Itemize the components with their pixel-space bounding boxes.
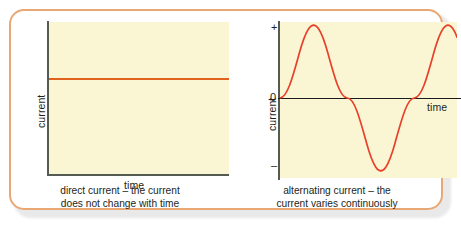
plot-area-direct-current: [49, 22, 229, 174]
y-axis-label-direct-current: current: [35, 95, 47, 128]
x-axis-label-alternating-current: time: [427, 101, 447, 113]
x-axis-direct-current: [47, 174, 229, 176]
caption-alternating-current-line1: alternating current – the: [229, 185, 445, 198]
y-tick-negative: –: [271, 159, 277, 171]
panel-alternating-current: current time + 0 – alternating current –…: [229, 11, 445, 208]
caption-alternating-current-line2: current varies continuously: [229, 198, 445, 211]
y-axis-direct-current: [47, 21, 49, 176]
y-tick-positive: +: [271, 21, 277, 33]
caption-direct-current: direct current – the current does not ch…: [11, 185, 229, 210]
y-tick-zero: 0: [270, 91, 276, 103]
figure-card: current time direct current – the curren…: [9, 9, 443, 210]
caption-direct-current-line2: does not change with time: [11, 198, 229, 211]
panel-direct-current: current time direct current – the curren…: [11, 11, 229, 208]
caption-alternating-current: alternating current – the current varies…: [229, 185, 445, 210]
alternating-current-waveform: [280, 22, 457, 178]
direct-current-line: [49, 78, 229, 80]
caption-direct-current-line1: direct current – the current: [11, 185, 229, 198]
